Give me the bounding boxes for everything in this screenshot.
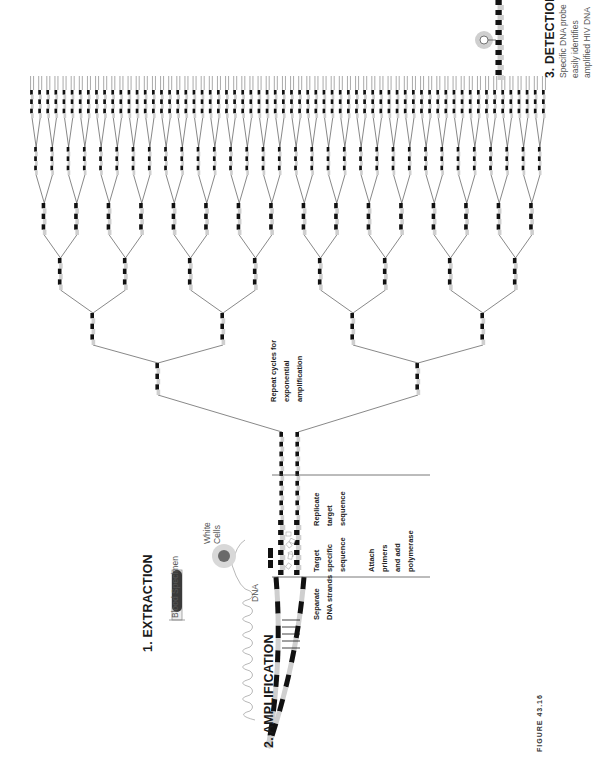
dna-copy (132, 147, 136, 175)
dna-copy (327, 147, 331, 175)
dna-copy (266, 90, 270, 118)
branch-line (36, 118, 40, 147)
branch-line (426, 118, 430, 147)
branch-line (475, 118, 479, 147)
branch-line (85, 118, 89, 147)
dna-copy (469, 90, 473, 118)
dna-copy (164, 147, 168, 175)
replicate-label-3: sequence (337, 491, 348, 526)
dna-copy (172, 203, 177, 235)
branch-line (260, 118, 264, 147)
dna-copy (188, 258, 193, 290)
dna-copy (119, 90, 123, 118)
dna-copy (432, 203, 437, 235)
branch-line (239, 235, 255, 258)
dna-copy (526, 90, 530, 118)
dna-copy (412, 90, 416, 118)
dna-copy (253, 258, 258, 290)
dna-copy (379, 90, 383, 118)
dna-copy (347, 90, 351, 118)
branch-line (471, 118, 475, 147)
branch-line (166, 118, 170, 147)
branch-line (442, 118, 446, 147)
dna-copy (323, 90, 327, 118)
branch-line (162, 118, 166, 147)
dna-copy (534, 90, 538, 118)
branch-line (134, 118, 138, 147)
branch-line (256, 235, 272, 258)
branch-line (341, 118, 345, 147)
dna-copy (392, 147, 396, 175)
dna-copy (58, 258, 63, 290)
branch-line (158, 345, 223, 363)
branch-line (434, 235, 450, 258)
separating-strand (292, 650, 294, 662)
separate-label-2: DNA strands (324, 575, 335, 620)
branch-line (329, 118, 333, 147)
branch-line (312, 118, 316, 147)
dna-copy (249, 90, 253, 118)
dna-copy (152, 90, 156, 118)
dna-copy (477, 90, 481, 118)
dna-copy (464, 203, 469, 235)
dna-copy (306, 90, 310, 118)
probe-icon (480, 36, 488, 44)
dna-copy (123, 258, 128, 290)
dna-copy (497, 203, 502, 235)
dna-copy (399, 203, 404, 235)
dna-copy (30, 90, 34, 118)
attach-label-1: Attach (366, 549, 377, 572)
branch-line (520, 118, 524, 147)
dna-copy (331, 90, 335, 118)
branch-line (174, 175, 182, 203)
dna-copy (128, 90, 132, 118)
branch-line (227, 118, 231, 147)
separating-strand (276, 577, 277, 589)
dna-copy (95, 90, 99, 118)
dna-copy (87, 90, 91, 118)
branch-line (101, 175, 109, 203)
branch-line (304, 235, 320, 258)
branch-line (304, 175, 312, 203)
detection-text-1: Specific DNA probe (558, 4, 569, 78)
branch-line (321, 290, 354, 313)
dna-copy (34, 147, 38, 175)
branch-line (65, 118, 69, 147)
dna-copy (204, 203, 209, 235)
branch-line (467, 175, 475, 203)
dna-copy (197, 147, 201, 175)
branch-line (487, 118, 491, 147)
dna-copy (144, 90, 148, 118)
branch-line (52, 118, 56, 147)
dna-copy (542, 90, 546, 118)
dna-copy (355, 90, 359, 118)
branch-line (199, 118, 203, 147)
dna-copy (184, 90, 188, 118)
branch-line (357, 118, 361, 147)
dna-copy (90, 313, 95, 345)
branch-line (536, 118, 540, 147)
branch-line (231, 175, 239, 203)
dna-copy (67, 147, 71, 175)
dna-copy (396, 90, 400, 118)
branch-line (69, 175, 77, 203)
branch-line (211, 118, 215, 147)
dna-copy (480, 313, 485, 345)
branch-line (182, 118, 186, 147)
branch-line (491, 118, 495, 147)
target-label-1: Target (311, 550, 322, 572)
separating-strand (283, 687, 286, 699)
dna-copy (155, 363, 160, 395)
dna-copy (513, 258, 518, 290)
target-label-3: sequence (337, 537, 348, 572)
target-strand-left (278, 520, 285, 575)
separating-strand (279, 699, 282, 711)
branch-line (434, 175, 442, 203)
branch-line (422, 118, 426, 147)
dna-copy (359, 147, 363, 175)
dna-copy (217, 90, 221, 118)
dna-copy (473, 147, 477, 175)
dna-copy (262, 147, 266, 175)
branch-line (32, 118, 36, 147)
branch-line (36, 175, 44, 203)
